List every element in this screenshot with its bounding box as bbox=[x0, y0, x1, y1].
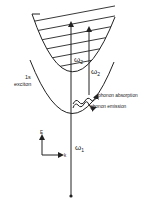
axis-e-label: E bbox=[40, 130, 43, 135]
axis-k-label: k bbox=[64, 153, 67, 158]
exciton-label-1s: 1s bbox=[25, 74, 31, 80]
phonon-absorption-label: phonon absorption bbox=[98, 93, 138, 98]
exciton-label-exciton: exciton bbox=[14, 81, 31, 87]
ground-state-dot bbox=[69, 194, 72, 197]
omega1-label: ω1 bbox=[75, 143, 84, 153]
phonon-emission-label: phonon emission bbox=[90, 104, 127, 109]
omega2-upper-label: ω2 bbox=[74, 55, 83, 65]
exciton-dispersion-diagram: ω2 ω2 ω1 1s exciton phonon absorption ph… bbox=[0, 0, 167, 206]
omega2-right-label: ω2 bbox=[91, 67, 100, 77]
